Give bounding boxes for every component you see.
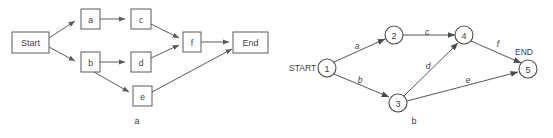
node-b-label: b	[88, 58, 93, 68]
node-5[interactable]: 5	[519, 60, 537, 78]
node-end-label: End	[242, 38, 258, 48]
node-start-label: Start	[21, 38, 41, 48]
edge-b-e	[94, 72, 129, 92]
panel-b-group: a b c d e f START END 1 2 3	[289, 26, 537, 126]
edge-label-d: d	[426, 61, 431, 71]
node-a-label: a	[88, 15, 93, 25]
end-terminal-label: END	[515, 47, 533, 57]
panel-a-group: Start a c b d e	[12, 9, 268, 126]
node-2-label: 2	[391, 31, 396, 41]
edge-start-a	[49, 21, 75, 38]
network-diagram-svg: Start a c b d e	[0, 0, 553, 138]
edge-e-end	[152, 49, 232, 92]
figure-canvas: Start a c b d e	[0, 0, 553, 138]
node-f[interactable]: f	[183, 32, 201, 52]
edge-label-e: e	[466, 75, 471, 85]
edge-label-f: f	[497, 39, 501, 49]
node-c[interactable]: c	[131, 9, 151, 29]
edge-start-b	[49, 47, 75, 61]
node-a[interactable]: a	[81, 9, 100, 29]
node-4-label: 4	[461, 31, 466, 41]
panel-b-caption: b	[411, 116, 416, 126]
node-e[interactable]: e	[133, 86, 152, 106]
node-end[interactable]: End	[233, 32, 268, 53]
node-d-label: d	[139, 58, 144, 68]
edge-label-a: a	[355, 41, 360, 51]
node-d[interactable]: d	[131, 52, 151, 72]
panel-a-caption: a	[134, 116, 139, 126]
node-e-label: e	[140, 92, 145, 102]
node-3[interactable]: 3	[389, 94, 407, 112]
edge-3-4	[404, 43, 458, 96]
edge-c-f	[151, 24, 179, 38]
edge-label-b: b	[358, 75, 363, 85]
node-start[interactable]: Start	[12, 32, 49, 53]
node-3-label: 3	[395, 99, 400, 109]
start-terminal-label: START	[289, 63, 316, 73]
edge-d-f	[151, 45, 179, 58]
node-5-label: 5	[525, 65, 530, 75]
node-b[interactable]: b	[81, 52, 100, 72]
node-1[interactable]: 1	[318, 59, 336, 77]
edge-1-2	[334, 39, 385, 62]
panel-b-edge-labels: a b c d e f	[355, 27, 501, 85]
node-2[interactable]: 2	[385, 26, 403, 44]
node-4[interactable]: 4	[455, 26, 473, 44]
node-1-label: 1	[324, 64, 329, 74]
